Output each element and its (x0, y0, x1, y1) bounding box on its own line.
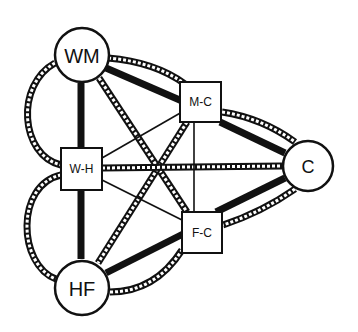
node-fc: F-C (182, 212, 222, 253)
node-label-wm: WM (64, 45, 100, 67)
node-label-mc: M-C (189, 95, 212, 109)
node-label-c: C (302, 157, 315, 177)
node-wm: WM (55, 28, 109, 82)
node-wh: W-H (61, 148, 102, 190)
network-diagram: WM M-C W-H C F-C HF (0, 0, 358, 332)
node-hf: HF (55, 261, 109, 315)
node-mc: M-C (180, 82, 221, 122)
node-label-fc: F-C (192, 226, 212, 240)
node-label-wh: W-H (70, 162, 94, 176)
edge-wh-hf-dotted (27, 175, 61, 279)
edge-c-fc-thick (216, 178, 285, 212)
node-c: C (283, 141, 333, 191)
edge-wm-wh-dotted (27, 63, 61, 165)
node-label-hf: HF (69, 278, 96, 300)
